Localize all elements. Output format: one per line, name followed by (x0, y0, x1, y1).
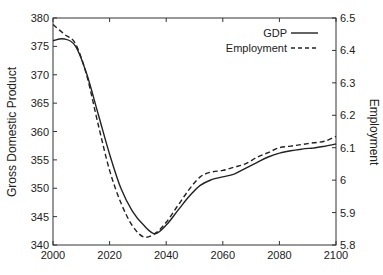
y2-tick-label: 6.2 (340, 109, 355, 121)
x-tick-label: 2080 (267, 249, 291, 261)
x-tick-label: 2040 (154, 249, 178, 261)
x-axis: 200020202040206020802100 (41, 18, 348, 261)
y-tick-label: 340 (31, 239, 49, 251)
series-layer (53, 25, 336, 238)
series-line-gdp (53, 39, 336, 234)
series-line-employment (53, 25, 336, 238)
plot-border (53, 18, 336, 245)
plot-frame (53, 18, 336, 245)
y-axis-right: 5.85.966.16.26.36.46.5 (332, 12, 355, 251)
legend-label-employment: Employment (226, 42, 287, 54)
y-tick-label: 350 (31, 182, 49, 194)
legend: GDP Employment (226, 27, 318, 54)
y-tick-label: 380 (31, 12, 49, 24)
y2-tick-label: 6.3 (340, 77, 355, 89)
y2-axis-title: Employment (367, 99, 381, 166)
y2-tick-label: 6 (340, 174, 346, 186)
x-tick-label: 2060 (211, 249, 235, 261)
y-tick-label: 360 (31, 126, 49, 138)
y2-tick-label: 6.4 (340, 44, 355, 56)
y-tick-label: 370 (31, 69, 49, 81)
y2-tick-label: 6.1 (340, 142, 355, 154)
legend-label-gdp: GDP (263, 27, 287, 39)
y-tick-label: 365 (31, 97, 49, 109)
y-axis-title: Gross Domestic Product (5, 66, 19, 197)
y2-tick-label: 5.9 (340, 207, 355, 219)
y2-tick-label: 5.8 (340, 239, 355, 251)
y2-tick-label: 6.5 (340, 12, 355, 24)
x-tick-label: 2020 (97, 249, 121, 261)
y-tick-label: 375 (31, 40, 49, 52)
y-tick-label: 355 (31, 154, 49, 166)
dual-axis-line-chart: 200020202040206020802100 340345350355360… (0, 0, 383, 275)
y-tick-label: 345 (31, 211, 49, 223)
